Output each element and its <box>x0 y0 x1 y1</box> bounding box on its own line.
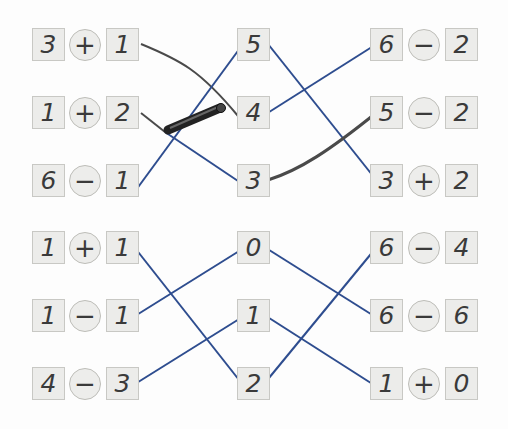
operator-circle: − <box>408 300 440 332</box>
operand-box: 6 <box>32 164 65 197</box>
line-6minus1-to-5 <box>136 44 243 190</box>
operand-box: 4 <box>445 231 478 264</box>
operand-box: 1 <box>106 299 139 332</box>
line-0-to-6minus6 <box>266 248 374 316</box>
pencil-icon <box>168 104 226 131</box>
operand-box: 6 <box>370 231 403 264</box>
middle-answer-5[interactable]: 1 <box>237 299 270 332</box>
operand-box: 1 <box>106 28 139 61</box>
middle-answer-3[interactable]: 3 <box>237 164 270 197</box>
operator-circle: − <box>408 232 440 264</box>
middle-answer-1[interactable]: 5 <box>237 28 270 61</box>
line-1plus1-to-2 <box>135 248 243 385</box>
line-1plus2-to-3-pencil <box>141 113 165 132</box>
line-5-to-3plus2 <box>268 44 377 181</box>
line-4-to-6minus2 <box>266 45 375 114</box>
line-4minus3-to-1 <box>135 316 244 384</box>
operand-box: 6 <box>445 299 478 332</box>
operand-box: 1 <box>106 164 139 197</box>
operand-box: 1 <box>32 231 65 264</box>
line-1plus2-to-3-blue <box>165 132 238 181</box>
operand-box: 1 <box>106 231 139 264</box>
operand-box: 0 <box>445 367 478 400</box>
middle-answer-2[interactable]: 4 <box>237 96 270 129</box>
operand-box: 3 <box>106 367 139 400</box>
operator-circle: − <box>69 368 101 400</box>
line-1minus1-to-0 <box>135 248 244 316</box>
operand-box: 2 <box>445 96 478 129</box>
connection-lines <box>0 0 508 429</box>
operand-box: 1 <box>370 367 403 400</box>
operator-circle: + <box>69 97 101 129</box>
operand-box: 5 <box>370 96 403 129</box>
operand-box: 6 <box>370 28 403 61</box>
operand-box: 3 <box>370 164 403 197</box>
operand-box: 2 <box>106 96 139 129</box>
operand-box: 6 <box>370 299 403 332</box>
operand-box: 1 <box>32 96 65 129</box>
line-3plus1-to-4 <box>141 44 238 116</box>
operator-circle: − <box>69 300 101 332</box>
operator-circle: + <box>69 29 101 61</box>
operator-circle: + <box>408 368 440 400</box>
matching-worksheet: 3 + 1 1 + 2 6 − 1 1 + 1 1 − 1 4 − 3 5 4 … <box>0 0 508 429</box>
operand-box: 3 <box>32 28 65 61</box>
operand-box: 2 <box>445 28 478 61</box>
line-1-to-1plus0 <box>266 316 374 385</box>
middle-answer-4[interactable]: 0 <box>237 231 270 264</box>
operator-circle: − <box>69 165 101 197</box>
operand-box: 1 <box>32 299 65 332</box>
operand-box: 2 <box>445 164 478 197</box>
line-2-to-6minus4 <box>264 249 375 384</box>
middle-answer-6[interactable]: 2 <box>237 367 270 400</box>
operand-box: 4 <box>32 367 65 400</box>
operator-circle: − <box>408 29 440 61</box>
operator-circle: + <box>69 232 101 264</box>
operator-circle: − <box>408 97 440 129</box>
operator-circle: + <box>408 165 440 197</box>
line-3-to-5minus2 <box>268 113 376 180</box>
